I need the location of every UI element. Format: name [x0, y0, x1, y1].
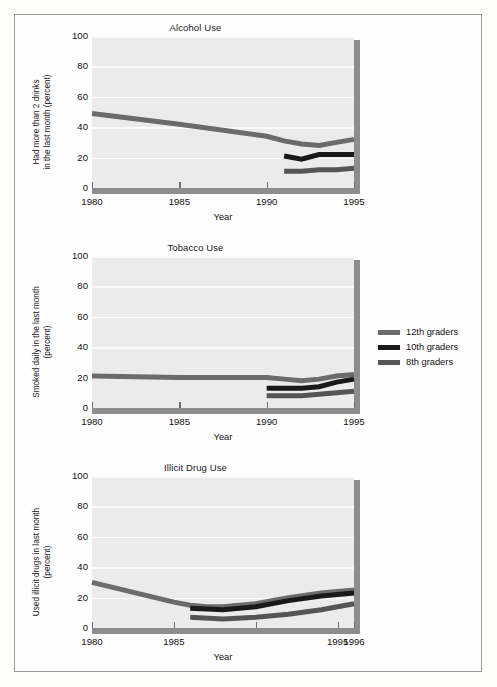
y-tick-label: 80 — [62, 280, 88, 291]
y-tick-label: 80 — [62, 60, 88, 71]
y-axis-ticks: 020406080100 — [58, 36, 88, 188]
x-tick-label: 1985 — [163, 636, 184, 647]
legend-label: 12th graders — [406, 327, 458, 337]
x-tick-label: 1980 — [81, 196, 102, 207]
series-line — [267, 391, 354, 396]
x-tick — [92, 182, 93, 188]
x-tick — [256, 622, 257, 628]
legend-item: 10th graders — [378, 340, 478, 354]
legend-label: 8th graders — [406, 357, 453, 367]
y-tick-label: 80 — [62, 500, 88, 511]
x-tick — [338, 622, 339, 628]
x-axis: 1980198519901995 — [92, 188, 354, 194]
x-tick — [179, 182, 180, 188]
y-tick-label: 60 — [62, 531, 88, 542]
y-tick-label: 40 — [62, 561, 88, 572]
legend-label: 10th graders — [406, 342, 458, 352]
series-line — [284, 155, 354, 160]
x-axis-label: Year — [92, 431, 354, 442]
y-tick-label: 0 — [62, 402, 88, 413]
legend-item: 8th graders — [378, 355, 478, 369]
chart-panel-alcohol: Alcohol Use Had more than 2 drinks in th… — [18, 18, 373, 236]
y-tick-label: 100 — [62, 250, 88, 261]
figure-root: Alcohol Use Had more than 2 drinks in th… — [0, 0, 497, 687]
x-axis: 1980198519951996 — [92, 628, 354, 634]
y-tick-label: 0 — [62, 622, 88, 633]
series-line — [92, 114, 354, 146]
y-tick-label: 20 — [62, 372, 88, 383]
x-tick — [267, 182, 268, 188]
y-axis-label: Smoked daily in the last month (percent) — [32, 252, 58, 432]
series-line — [92, 375, 354, 381]
legend-swatch-icon — [378, 345, 400, 350]
y-axis-label: Used illicit drugs in last month (percen… — [32, 472, 58, 652]
chart-panel-tobacco: Tobacco Use Smoked daily in the last mon… — [18, 238, 373, 456]
x-tick-label: 1985 — [169, 196, 190, 207]
plot-shadow-right — [354, 40, 360, 192]
x-tick — [267, 402, 268, 408]
x-tick-label: 1980 — [81, 416, 102, 427]
legend-swatch-icon — [378, 330, 400, 335]
x-tick-label: 1980 — [81, 636, 102, 647]
x-axis-label: Year — [92, 211, 354, 222]
x-tick-label: 1995 — [343, 196, 364, 207]
y-tick-label: 20 — [62, 152, 88, 163]
series-layer — [92, 36, 354, 188]
legend-item: 12th graders — [378, 325, 478, 339]
y-tick-label: 40 — [62, 341, 88, 352]
x-axis: 1980198519901995 — [92, 408, 354, 414]
y-tick-label: 60 — [62, 91, 88, 102]
series-line — [284, 168, 354, 171]
series-layer — [92, 256, 354, 408]
y-axis-ticks: 020406080100 — [58, 256, 88, 408]
x-tick — [174, 622, 175, 628]
chart-panel-illicit-drug: Illicit Drug Use Used illicit drugs in l… — [18, 458, 373, 676]
legend-swatch-icon — [378, 360, 400, 365]
x-tick — [354, 402, 355, 408]
y-tick-label: 20 — [62, 592, 88, 603]
x-tick-label: 1990 — [256, 196, 277, 207]
x-tick-label: 1996 — [343, 636, 364, 647]
x-tick — [92, 402, 93, 408]
series-layer — [92, 476, 354, 628]
x-tick — [354, 182, 355, 188]
y-tick-label: 60 — [62, 311, 88, 322]
y-axis-label: Had more than 2 drinks in the last month… — [32, 32, 58, 212]
x-axis-label: Year — [92, 651, 354, 662]
x-tick — [354, 622, 355, 628]
plot-shadow-right — [354, 480, 360, 632]
plot-shadow-right — [354, 260, 360, 412]
legend: 12th graders10th graders8th graders — [378, 325, 478, 370]
x-tick-label: 1995 — [343, 416, 364, 427]
x-tick-label: 1990 — [256, 416, 277, 427]
x-tick — [92, 622, 93, 628]
y-tick-label: 0 — [62, 182, 88, 193]
y-tick-label: 40 — [62, 121, 88, 132]
x-tick-label: 1985 — [169, 416, 190, 427]
y-axis-ticks: 020406080100 — [58, 476, 88, 628]
y-tick-label: 100 — [62, 470, 88, 481]
x-tick — [179, 402, 180, 408]
y-tick-label: 100 — [62, 30, 88, 41]
